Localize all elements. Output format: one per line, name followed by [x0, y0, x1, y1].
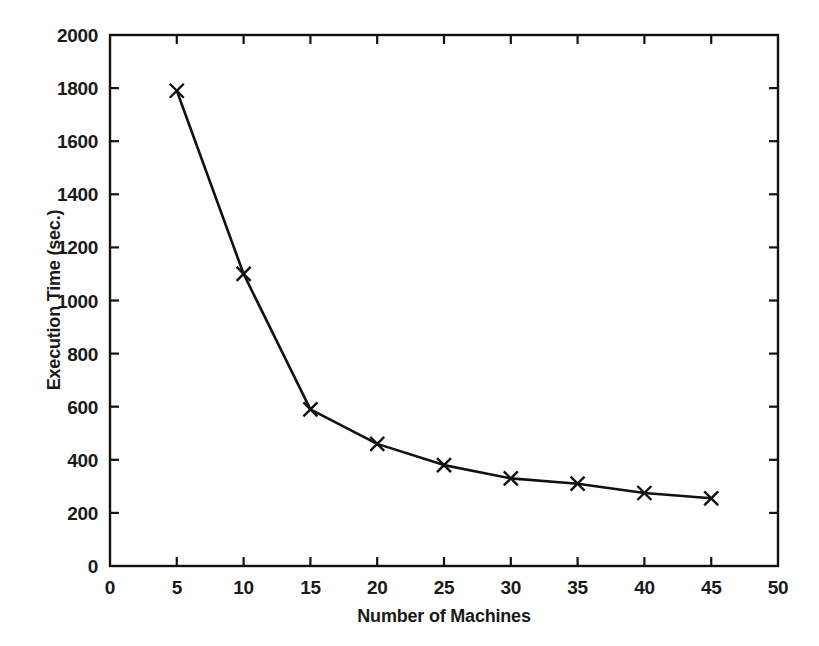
x-tick-label-15: 15 — [300, 577, 321, 598]
data-point-15 — [303, 402, 317, 416]
x-tick-label-30: 30 — [501, 577, 522, 598]
y-axis-title: Execution Time (sec.) — [44, 210, 64, 391]
x-tick-label-25: 25 — [434, 577, 455, 598]
y-tick-label-1400: 1400 — [57, 184, 98, 205]
x-tick-label-45: 45 — [701, 577, 722, 598]
y-tick-label-1800: 1800 — [57, 78, 98, 99]
x-tick-label-50: 50 — [768, 577, 789, 598]
x-tick-label-10: 10 — [233, 577, 254, 598]
x-axis-title: Number of Machines — [357, 606, 531, 626]
plot-frame — [110, 35, 778, 566]
data-point-20 — [370, 437, 384, 451]
y-tick-label-200: 200 — [67, 503, 98, 524]
x-tick-label-5: 5 — [172, 577, 183, 598]
tick-marks-group — [110, 35, 778, 566]
y-tick-label-1600: 1600 — [57, 131, 98, 152]
figure-container: 05101520253035404550 0200400600800100012… — [0, 0, 819, 646]
x-tick-label-35: 35 — [567, 577, 588, 598]
y-tick-label-0: 0 — [88, 556, 98, 577]
data-line-execution-time — [177, 91, 711, 499]
x-tick-labels-group: 05101520253035404550 — [105, 577, 788, 598]
data-point-5 — [170, 84, 184, 98]
x-tick-label-0: 0 — [105, 577, 115, 598]
x-tick-label-40: 40 — [634, 577, 655, 598]
y-tick-label-800: 800 — [67, 344, 98, 365]
execution-time-line-chart: 05101520253035404550 0200400600800100012… — [0, 0, 819, 646]
data-point-10 — [237, 267, 251, 281]
y-tick-label-600: 600 — [67, 397, 98, 418]
x-tick-label-20: 20 — [367, 577, 388, 598]
axes-box — [110, 35, 778, 566]
y-tick-label-400: 400 — [67, 450, 98, 471]
data-markers-group — [170, 84, 718, 506]
y-tick-label-2000: 2000 — [57, 25, 98, 46]
series-group — [170, 84, 718, 506]
